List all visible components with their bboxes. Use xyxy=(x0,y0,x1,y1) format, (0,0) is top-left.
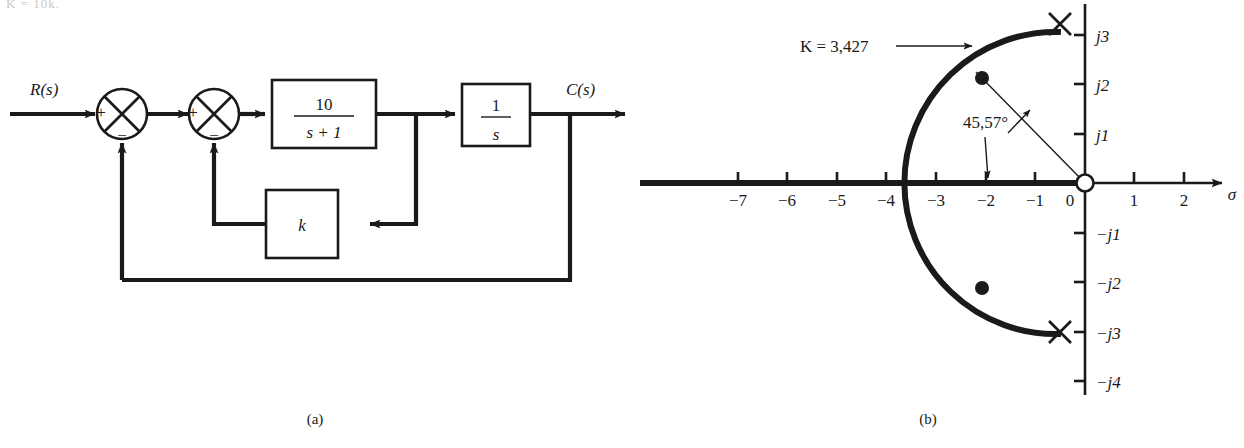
sigma-tick-label--6: −6 xyxy=(778,191,796,210)
sigma-ticks: −7 −6 −5 −4 −3 −2 −1 0 1 2 xyxy=(729,172,1188,210)
sigma-tick-label--7: −7 xyxy=(729,191,748,210)
summing-junction-2: + − xyxy=(188,89,239,145)
sum1-plus-sign: + xyxy=(96,103,106,122)
jomega-ticks: j3 j2 j1 −j1 −j2 −j3 −j4 xyxy=(1074,27,1121,392)
sigma-tick-label--2: −2 xyxy=(977,191,995,210)
damping-angle-arrow-to-ray xyxy=(1008,110,1030,133)
sum2-minus-sign: − xyxy=(209,126,219,145)
jomega-tick-label-j3: j3 xyxy=(1094,27,1109,46)
block-inner-feedback-gain: k xyxy=(266,190,338,258)
damping-angle-arrow-to-axis xyxy=(985,137,988,178)
sigma-tick-label-2: 2 xyxy=(1180,191,1189,210)
input-label: R(s) xyxy=(29,80,59,99)
root-locus-panel: σ −7 −6 −5 −4 −3 −2 −1 0 1 2 xyxy=(640,4,1237,428)
integrator-numerator: 1 xyxy=(492,96,501,115)
gain-block-label: k xyxy=(298,216,306,235)
operating-point-upper xyxy=(975,71,989,85)
plant-numerator: 10 xyxy=(316,95,333,114)
sigma-tick-label--4: −4 xyxy=(877,191,896,210)
block-integrator: 1 s xyxy=(462,84,530,146)
jomega-tick-label--j1: −j1 xyxy=(1096,225,1121,244)
sigma-tick-label-1: 1 xyxy=(1130,191,1139,210)
output-label: C(s) xyxy=(566,80,596,99)
block-diagram-panel: R(s) + − + − 10 s + 1 xyxy=(10,80,625,428)
block-plant-first-order: 10 s + 1 xyxy=(272,80,376,148)
damping-angle-label: 45,57° xyxy=(963,113,1008,132)
sigma-tick-label--5: −5 xyxy=(828,191,846,210)
jomega-tick-label--j4: −j4 xyxy=(1096,373,1121,392)
gain-annotation-label: K = 3,427 xyxy=(800,37,869,56)
sum1-minus-sign: − xyxy=(117,126,127,145)
sigma-tick-label--1: −1 xyxy=(1026,191,1044,210)
sum2-plus-sign: + xyxy=(188,103,198,122)
sigma-tick-label--3: −3 xyxy=(927,191,945,210)
operating-point-lower xyxy=(975,281,989,295)
integrator-denominator: s xyxy=(493,125,500,144)
caption-panel-a: (a) xyxy=(307,411,324,428)
caption-panel-b: (b) xyxy=(919,411,937,428)
plant-denominator: s + 1 xyxy=(306,123,341,142)
open-loop-zero-marker xyxy=(1077,175,1094,192)
summing-junction-1: + − xyxy=(96,89,147,145)
figure-svg: R(s) + − + − 10 s + 1 xyxy=(0,0,1244,448)
jomega-tick-label--j2: −j2 xyxy=(1096,274,1121,293)
sigma-axis-label: σ xyxy=(1228,185,1237,204)
jomega-tick-label-j1: j1 xyxy=(1094,126,1109,145)
figure-container: R(s) + − + − 10 s + 1 xyxy=(0,0,1244,448)
jomega-tick-label--j3: −j3 xyxy=(1096,324,1121,343)
sigma-tick-label-0: 0 xyxy=(1066,191,1075,210)
jomega-tick-label-j2: j2 xyxy=(1094,76,1110,95)
